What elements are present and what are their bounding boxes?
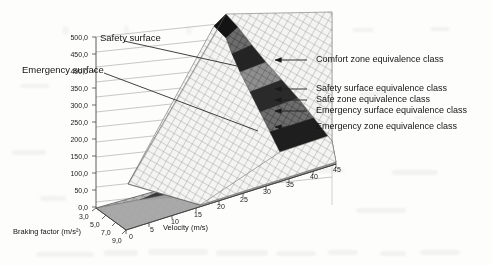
y-axis-title: Velocity (m/s) — [163, 224, 208, 232]
figure-root: Safety surface Emergency surface Comfort… — [0, 0, 492, 265]
z-tick-200: 200,0 — [52, 136, 88, 143]
z-tick-500: 500,0 — [52, 34, 88, 41]
annotation-comfort-zone: Comfort zone equivalence class — [316, 55, 444, 64]
y-tick-25: 25 — [240, 196, 248, 203]
z-tick-50: 50,0 — [52, 187, 88, 194]
z-axis-ticks — [92, 37, 96, 207]
y-tick-40: 40 — [310, 173, 318, 180]
z-tick-0: 0,0 — [52, 204, 88, 211]
annotation-safe-zone: Safe zone equivalence class — [316, 95, 430, 104]
y-tick-5: 5 — [150, 226, 154, 233]
z-tick-250: 250,0 — [52, 119, 88, 126]
y-tick-15: 15 — [194, 211, 202, 218]
x-tick-9: 9,0 — [112, 237, 122, 244]
z-tick-350: 350,0 — [52, 85, 88, 92]
y-tick-30: 30 — [263, 188, 271, 195]
y-tick-0: 0 — [129, 233, 133, 240]
z-tick-450: 450,0 — [52, 51, 88, 58]
z-tick-150: 150,0 — [52, 153, 88, 160]
y-tick-45: 45 — [333, 166, 341, 173]
annotation-emergency-surface-class: Emergency surface equivalence class — [316, 106, 467, 115]
callout-safety-surface: Safety surface — [100, 33, 161, 43]
x-tick-5: 5,0 — [90, 221, 100, 228]
annotation-safety-surface-class: Safety surface equivalence class — [316, 84, 447, 93]
y-tick-20: 20 — [217, 203, 225, 210]
z-tick-300: 300,0 — [52, 102, 88, 109]
z-tick-400: 400,0 — [52, 68, 88, 75]
z-tick-100: 100,0 — [52, 170, 88, 177]
annotation-emergency-zone: Emergency zone equivalence class — [316, 122, 457, 131]
y-tick-35: 35 — [286, 181, 294, 188]
x-tick-7: 7,0 — [101, 229, 111, 236]
x-tick-3: 3,0 — [79, 213, 89, 220]
x-axis-title: Braking factor (m/s²) — [13, 228, 81, 236]
